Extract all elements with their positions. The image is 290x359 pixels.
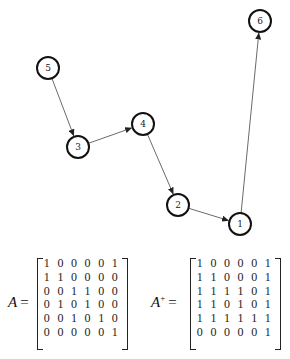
matrix-cell: 0 bbox=[220, 271, 234, 285]
matrix-cell: 1 bbox=[193, 285, 207, 299]
matrix-cell: 0 bbox=[81, 257, 95, 271]
matrix-cell: 1 bbox=[94, 312, 108, 326]
matrix-cell: 0 bbox=[94, 285, 108, 299]
matrix-cell: 0 bbox=[81, 312, 95, 326]
matrix-cell: 0 bbox=[108, 271, 122, 285]
matrix-cell: 0 bbox=[54, 312, 68, 326]
right-bracket bbox=[275, 258, 281, 350]
edge-1-to-6 bbox=[241, 33, 259, 213]
matrix-a-plus: A+= 100001110001111101110101111111000001 bbox=[145, 256, 290, 350]
node-label: 1 bbox=[237, 219, 243, 229]
node-5: 5 bbox=[37, 57, 59, 79]
matrix-cell: 1 bbox=[108, 257, 122, 271]
matrix-cell: 0 bbox=[108, 285, 122, 299]
matrix-cell: 1 bbox=[261, 271, 275, 285]
matrix-cell: 0 bbox=[247, 326, 261, 340]
matrix-cell: 0 bbox=[40, 326, 54, 340]
matrix-cell: 1 bbox=[40, 271, 54, 285]
matrix-cell: 1 bbox=[193, 298, 207, 312]
matrix-a-grid: 100001110000001100010100001010000001 bbox=[40, 257, 122, 340]
node-label: 6 bbox=[257, 16, 263, 26]
matrix-cell: 1 bbox=[234, 285, 248, 299]
matrix-cell: 0 bbox=[40, 298, 54, 312]
arrow-icon bbox=[52, 78, 74, 135]
matrix-a-plus-sup: + bbox=[160, 293, 165, 303]
node-4: 4 bbox=[132, 113, 154, 135]
matrix-cell: 0 bbox=[220, 257, 234, 271]
matrix-cell: 0 bbox=[234, 257, 248, 271]
matrix-cell: 0 bbox=[108, 312, 122, 326]
matrix-cell: 0 bbox=[247, 298, 261, 312]
matrix-cell: 0 bbox=[220, 298, 234, 312]
matrix-cell: 1 bbox=[67, 285, 81, 299]
matrix-cell: 0 bbox=[247, 257, 261, 271]
node-1: 1 bbox=[229, 213, 251, 235]
matrix-a-symbol: A bbox=[8, 294, 17, 310]
matrix-cell: 0 bbox=[81, 271, 95, 285]
matrix-cell: 1 bbox=[261, 285, 275, 299]
nodes: 123456 bbox=[37, 10, 271, 235]
matrix-cell: 1 bbox=[207, 298, 221, 312]
matrix-a-plus-label: A+= bbox=[151, 293, 177, 311]
matrix-cell: 0 bbox=[67, 326, 81, 340]
matrix-cell: 0 bbox=[247, 285, 261, 299]
matrix-cell: 1 bbox=[193, 312, 207, 326]
matrix-cell: 1 bbox=[207, 312, 221, 326]
matrix-cell: 1 bbox=[261, 298, 275, 312]
right-bracket bbox=[122, 258, 128, 350]
arrow-icon bbox=[147, 134, 173, 194]
node-label: 2 bbox=[175, 200, 181, 210]
matrix-cell: 1 bbox=[54, 298, 68, 312]
matrix-cell: 0 bbox=[207, 257, 221, 271]
node-6: 6 bbox=[249, 10, 271, 32]
matrix-cell: 1 bbox=[234, 312, 248, 326]
matrix-cell: 0 bbox=[108, 298, 122, 312]
arrow-icon bbox=[241, 33, 259, 213]
node-label: 3 bbox=[75, 142, 81, 152]
matrix-a-plus-symbol: A bbox=[151, 294, 160, 310]
matrix-cell: 1 bbox=[234, 298, 248, 312]
matrix-a: A= 100001110000001100010100001010000001 bbox=[0, 256, 140, 350]
matrix-cell: 1 bbox=[193, 257, 207, 271]
equals-sign: = bbox=[168, 294, 176, 310]
node-2: 2 bbox=[167, 194, 189, 216]
matrix-cell: 0 bbox=[193, 326, 207, 340]
matrix-cell: 0 bbox=[247, 271, 261, 285]
matrix-cell: 0 bbox=[234, 271, 248, 285]
node-label: 5 bbox=[45, 63, 51, 73]
matrix-cell: 1 bbox=[220, 312, 234, 326]
matrix-cell: 0 bbox=[67, 298, 81, 312]
node-label: 4 bbox=[140, 119, 146, 129]
node-3: 3 bbox=[67, 136, 89, 158]
matrix-cell: 0 bbox=[40, 285, 54, 299]
matrix-cell: 1 bbox=[207, 271, 221, 285]
edge-3-to-4 bbox=[88, 128, 131, 143]
matrix-cell: 1 bbox=[81, 285, 95, 299]
matrix-cell: 0 bbox=[67, 271, 81, 285]
arrow-icon bbox=[88, 128, 131, 143]
matrix-cell: 0 bbox=[54, 257, 68, 271]
matrix-cell: 0 bbox=[220, 326, 234, 340]
matrix-cell: 1 bbox=[193, 271, 207, 285]
matrix-cell: 0 bbox=[94, 271, 108, 285]
matrix-cell: 0 bbox=[54, 285, 68, 299]
edge-5-to-3 bbox=[52, 78, 74, 135]
matrix-cell: 1 bbox=[40, 257, 54, 271]
matrix-cell: 0 bbox=[207, 326, 221, 340]
edge-4-to-2 bbox=[147, 134, 173, 194]
matrix-cell: 0 bbox=[67, 257, 81, 271]
matrix-cell: 1 bbox=[108, 326, 122, 340]
directed-graph: 123456 bbox=[0, 0, 290, 250]
matrix-cell: 0 bbox=[94, 257, 108, 271]
matrix-cell: 1 bbox=[261, 312, 275, 326]
edges bbox=[52, 33, 259, 221]
matrix-cell: 1 bbox=[261, 326, 275, 340]
matrix-cell: 0 bbox=[81, 326, 95, 340]
matrix-a-label: A= bbox=[8, 293, 29, 311]
matrix-cell: 1 bbox=[261, 257, 275, 271]
matrix-cell: 1 bbox=[207, 285, 221, 299]
matrix-cell: 1 bbox=[220, 285, 234, 299]
arrow-icon bbox=[189, 208, 229, 220]
matrix-cell: 1 bbox=[81, 298, 95, 312]
equals-sign: = bbox=[20, 294, 28, 310]
